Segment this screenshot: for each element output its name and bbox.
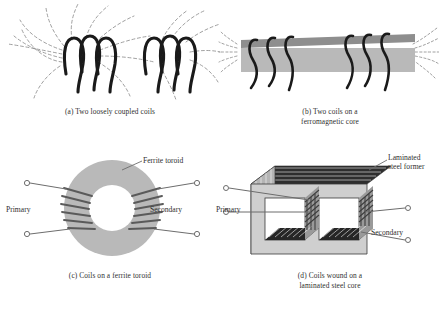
panel-c-ferrite-toroid	[0, 150, 220, 268]
panel-b-ferromagnetic-core	[219, 0, 439, 105]
primary-leads	[24, 180, 70, 236]
label-laminated-steel-former: Laminated steel former	[388, 153, 424, 172]
label-secondary-toroid: Secondary	[150, 205, 182, 214]
caption-panel-a: (a) Two loosely coupled coils	[20, 107, 200, 117]
figure-root: (a) Two loosely coupled coils	[0, 0, 439, 318]
caption-panel-d: (d) Coils wound on a laminated steel cor…	[240, 271, 420, 290]
caption-panel-c: (c) Coils on a ferrite toroid	[20, 271, 200, 281]
label-secondary-steel-core: Secondary	[371, 228, 403, 237]
label-ferrite-toroid: Ferrite toroid	[143, 156, 183, 165]
terminal-secondary-d-bottom[interactable]	[406, 238, 411, 243]
terminal-secondary-top[interactable]	[194, 180, 199, 185]
coil-a-left	[64, 36, 115, 92]
terminal-primary-top[interactable]	[24, 180, 29, 185]
terminal-secondary-bottom[interactable]	[194, 231, 199, 236]
panel-a-loosely-coupled-coils	[0, 0, 220, 105]
caption-panel-b: (b) Two coils on a ferromagnetic core	[240, 107, 420, 126]
terminal-primary-d-top[interactable]	[224, 186, 229, 191]
terminal-secondary-d-top[interactable]	[406, 206, 411, 211]
terminal-primary-bottom[interactable]	[24, 231, 29, 236]
coil-a-right	[144, 36, 195, 92]
panel-b-drawing	[219, 0, 439, 105]
panel-a-drawing	[0, 0, 220, 105]
panel-c-drawing	[0, 150, 220, 268]
flux-lines-right-end	[413, 28, 439, 78]
flux-lines-left-end	[219, 32, 237, 72]
label-primary-toroid: Primary	[6, 205, 30, 214]
label-primary-steel-core: Primary	[216, 205, 240, 214]
